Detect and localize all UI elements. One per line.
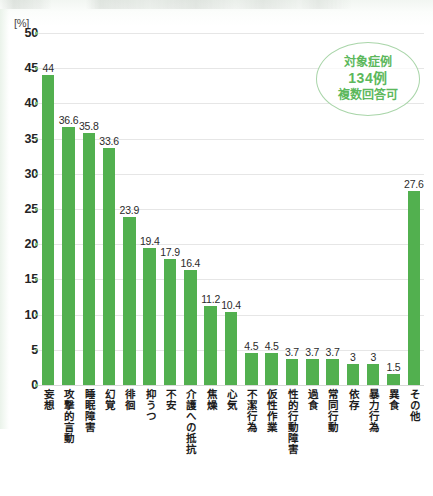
x-axis-category-label: その他 <box>408 389 419 422</box>
x-axis-category-label: 徘徊 <box>124 389 135 411</box>
bar-value-label: 11.2 <box>201 293 220 305</box>
bar <box>326 359 339 385</box>
x-axis-category-label: 常同行動 <box>327 389 338 433</box>
x-axis-category-label: 幻覚 <box>104 389 115 411</box>
bar <box>347 364 360 385</box>
x-axis-category-label: 異食 <box>388 389 399 411</box>
x-axis-category-label: 焦燥 <box>205 389 216 411</box>
annotation-line-3: 複数回答可 <box>338 88 399 103</box>
bar-value-label: 4.5 <box>265 340 279 352</box>
gridline <box>38 209 424 210</box>
bar-value-label: 23.9 <box>120 204 140 216</box>
x-axis-category-label: 不潔行為 <box>246 389 257 433</box>
x-axis-category-label: 仮性作業 <box>266 389 277 433</box>
bar <box>387 374 400 385</box>
bar-value-label: 17.9 <box>160 246 180 258</box>
bar <box>204 306 217 385</box>
y-axis-tick-label: 35 <box>4 132 38 146</box>
x-axis-category-label: 性的行動障害 <box>287 389 298 455</box>
bar <box>408 191 421 385</box>
bar-value-label: 3.7 <box>326 346 340 358</box>
y-axis-tick-label: 25 <box>4 202 38 216</box>
bar <box>103 148 116 385</box>
y-axis-tick-label: 30 <box>4 167 38 181</box>
bar-value-label: 10.4 <box>221 299 241 311</box>
y-axis-tick-label: 0 <box>4 378 38 392</box>
annotation-line-1: 対象症例 <box>344 55 393 70</box>
bar-value-label: 16.4 <box>181 257 201 269</box>
bar <box>265 353 278 385</box>
y-axis-tick-label: 50 <box>4 26 38 40</box>
y-axis-tick-label: 10 <box>4 308 38 322</box>
annotation-line-2: 134例 <box>348 70 387 88</box>
bar-value-label: 35.8 <box>79 120 99 132</box>
bar <box>367 364 380 385</box>
y-axis-tick-label: 15 <box>4 272 38 286</box>
bar-value-label: 19.4 <box>140 235 160 247</box>
x-axis-category-label: 攻撃的言動 <box>63 389 74 444</box>
bar <box>164 259 177 385</box>
y-axis: 05101520253035404550 <box>0 33 38 385</box>
y-axis-tick-label: 5 <box>4 343 38 357</box>
x-axis-category-label: 不安 <box>165 389 176 411</box>
bar <box>225 312 238 385</box>
y-axis-tick-label: 45 <box>4 61 38 75</box>
bar-value-label: 36.6 <box>59 114 79 126</box>
page-headline-sliver <box>0 0 433 9</box>
x-axis-category-label: 睡眠障害 <box>83 389 94 433</box>
x-axis-category-label: 心気 <box>226 389 237 411</box>
bar-value-label: 27.6 <box>404 178 424 190</box>
bar <box>245 353 258 385</box>
bar-value-label: 3.7 <box>285 346 299 358</box>
y-axis-tick-label: 20 <box>4 237 38 251</box>
y-axis-tick-label: 40 <box>4 96 38 110</box>
gridline <box>38 279 424 280</box>
x-axis-category-label: 介護への抵抗 <box>185 389 196 455</box>
x-axis-category-label: 抑うつ <box>144 389 155 422</box>
bar-value-label: 3.7 <box>305 346 319 358</box>
bar-value-label: 33.6 <box>99 135 119 147</box>
gridline <box>38 33 424 34</box>
bar <box>306 359 319 385</box>
bar-value-label: 1.5 <box>387 361 401 373</box>
bar-value-label: 3 <box>350 351 356 363</box>
chart-page: [%] 05101520253035404550 4436.635.833.62… <box>0 0 433 496</box>
gridline <box>38 174 424 175</box>
x-axis-category-label: 依存 <box>348 389 359 411</box>
gridline <box>38 385 424 386</box>
bar <box>62 127 75 385</box>
bar-value-label: 3 <box>370 351 376 363</box>
x-axis-category-label: 妄想 <box>43 389 54 411</box>
gridline <box>38 139 424 140</box>
gridline <box>38 244 424 245</box>
x-axis-category-label: 暴力行為 <box>368 389 379 433</box>
bar <box>286 359 299 385</box>
bar-value-label: 4.5 <box>244 340 258 352</box>
bar <box>143 248 156 385</box>
bar <box>42 75 55 385</box>
x-axis-category-label: 過食 <box>307 389 318 411</box>
bar <box>184 270 197 385</box>
x-axis-category-labels: 妄想攻撃的言動睡眠障害幻覚徘徊抑うつ不安介護への抵抗焦燥心気不潔行為仮性作業性的… <box>38 389 424 493</box>
bar <box>123 217 136 385</box>
bar <box>83 133 96 385</box>
bar-value-label: 44 <box>43 62 54 74</box>
sample-size-annotation: 対象症例 134例 複数回答可 <box>316 42 420 116</box>
